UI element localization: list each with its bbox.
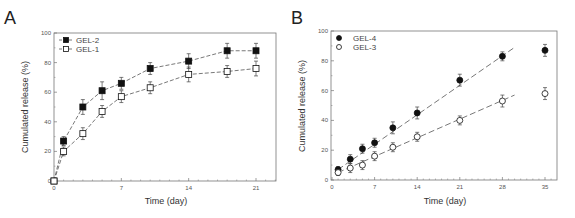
y-tick-label: 20 [44,148,51,154]
data-point [499,53,505,59]
legend: GEL-2GEL-1 [59,36,100,54]
data-point [372,140,378,146]
series-gel-3 [335,88,548,176]
y-tick-label: 60 [44,89,51,95]
x-tick-label: 14 [414,184,421,190]
data-point [253,48,259,54]
data-point [335,170,341,176]
data-point [390,125,396,131]
data-point [347,156,353,162]
release-charts: A B Time (day) Time (day) Cumulated rele… [0,0,575,218]
x-tick-label: 35 [542,184,549,190]
data-point [99,88,105,94]
data-point [457,77,463,83]
x-tick-label: 21 [456,184,463,190]
x-tick-label: 28 [499,184,506,190]
plot-frame [54,33,276,181]
y-tick-label: 40 [321,117,328,123]
data-point [390,144,396,150]
data-point [147,66,153,72]
data-point [147,85,153,91]
data-point [457,117,463,123]
y-tick-label: 100 [318,28,329,34]
data-point [347,165,353,171]
data-point [372,153,378,159]
data-point [186,71,192,77]
legend-label: GEL-3 [353,43,377,52]
data-point [118,80,124,86]
panel-a-letter: A [4,8,16,28]
y-tick-label: 80 [44,60,51,66]
data-point [224,48,230,54]
data-point [359,146,365,152]
chart-panel-b: 0204060801000714212835GEL-4GEL-3 [318,28,557,190]
data-point [80,104,86,110]
data-point [118,94,124,100]
x-tick-label: 7 [373,184,377,190]
legend-label: GEL-4 [353,34,377,43]
panel-a-xlabel: Time (day) [145,196,188,206]
panel-b-ylabel: Cumulated release (%) [297,60,307,152]
figure: A B Time (day) Time (day) Cumulated rele… [0,0,575,218]
plot-frame [331,31,557,180]
data-point [253,66,259,72]
data-point [99,108,105,114]
data-point [80,131,86,137]
panel-b-letter: B [291,8,303,28]
data-point [224,68,230,74]
panel-b-xlabel: Time (day) [424,196,467,206]
y-tick-label: 20 [321,147,328,153]
data-point [414,134,420,140]
fit-line [338,95,514,172]
data-point [414,110,420,116]
legend-label: GEL-1 [76,45,100,54]
x-tick-label: 0 [330,184,334,190]
series-gel-2 [51,43,259,184]
legend-label: GEL-2 [76,36,100,45]
panel-a-ylabel: Cumulated release (%) [20,61,30,153]
y-tick-label: 80 [321,58,328,64]
chart-panel-a: 020406080100071421GEL-2GEL-1 [41,30,276,191]
x-tick-label: 0 [52,185,56,191]
data-point [51,178,57,184]
y-tick-label: 100 [41,30,52,36]
data-point [61,138,67,144]
data-point [542,47,548,53]
series-gel-1 [51,61,259,184]
data-point [542,91,548,97]
x-tick-label: 21 [253,185,260,191]
y-tick-label: 0 [325,177,329,183]
legend: GEL-4GEL-3 [337,34,377,52]
y-tick-label: 60 [321,88,328,94]
series-gel-4 [335,44,548,172]
data-point [499,98,505,104]
x-tick-label: 7 [120,185,124,191]
data-point [186,58,192,64]
data-point [61,148,67,154]
data-point [359,162,365,168]
x-tick-label: 14 [185,185,192,191]
y-tick-label: 40 [44,119,51,125]
